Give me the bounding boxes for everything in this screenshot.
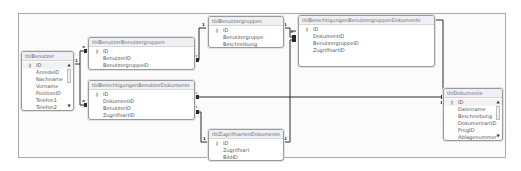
vertical-scrollbar[interactable]: ▲ ▼	[66, 61, 72, 109]
table-tblBerechtigungenBenutzergruppenDokumente[interactable]: tblBerechtigungenBenutzergruppenDokument…	[298, 15, 435, 67]
field[interactable]: BildID	[209, 154, 283, 161]
scroll-down-icon[interactable]: ▼	[495, 133, 501, 138]
table-tblBenutzerBenutzergruppen[interactable]: tblBenutzerBenutzergruppen ⚷ID BenutzerI…	[88, 37, 195, 70]
table-title[interactable]: tblBenutzerBenutzergruppen	[89, 38, 194, 47]
cardinality-one: 1	[75, 58, 78, 63]
field[interactable]: DokumentartID	[444, 120, 502, 127]
field-list: ⚷ID DokumentID BenutzerID ZugriffsartID	[89, 90, 194, 119]
rel-zugriffsarten-berechtigungenbenutzergruppendokumente	[282, 40, 296, 142]
field-list: ⚷ID Benutzergruppe Beschreibung	[209, 26, 283, 48]
field[interactable]: Ablagenummer	[444, 134, 502, 141]
table-title[interactable]: tblDokumente	[444, 89, 502, 98]
cardinality-many: ∞	[290, 29, 293, 34]
scroll-thumb[interactable]	[67, 69, 71, 83]
cardinality-one: 1	[284, 136, 287, 141]
table-tblBenutzergruppen[interactable]: tblBenutzergruppen ⚷ID Benutzergruppe Be…	[208, 16, 284, 48]
field[interactable]: DokumentID	[299, 33, 434, 40]
field-primary-key[interactable]: ⚷ID	[299, 26, 434, 33]
field-list: ⚷ID Zugriffsart BildID	[209, 139, 283, 161]
field[interactable]: BenutzerID	[89, 55, 194, 62]
key-icon: ⚷	[305, 26, 309, 33]
field-primary-key[interactable]: ⚷ID	[209, 140, 283, 147]
table-title[interactable]: tblBenutzer	[22, 52, 73, 61]
field[interactable]: Beschreibung	[444, 113, 502, 120]
scroll-up-icon[interactable]: ▲	[495, 99, 501, 104]
field-primary-key[interactable]: ⚷ID	[89, 48, 194, 55]
field-primary-key[interactable]: ⚷ID	[444, 99, 502, 106]
table-tblBenutzer[interactable]: tblBenutzer ⚷ID AnredeID Nachname Vornam…	[21, 51, 74, 111]
key-icon: ⚷	[215, 140, 219, 147]
cardinality-many: ∞	[82, 44, 85, 49]
field[interactable]: Benutzergruppe	[209, 34, 283, 41]
scroll-thumb[interactable]	[496, 106, 500, 120]
cardinality-one: 1	[284, 22, 287, 27]
table-title[interactable]: tblBerechtigungenBenutzerDokumente	[89, 81, 194, 90]
field[interactable]: ZugriffsartID	[89, 112, 194, 119]
table-title[interactable]: tblBerechtigungenBenutzergruppenDokument…	[299, 16, 434, 25]
field[interactable]: Zugriffsart	[209, 147, 283, 154]
table-tblZugriffsartenDokumente[interactable]: tblZugriffsartenDokumente ⚷ID Zugriffsar…	[208, 129, 284, 161]
field[interactable]: Dateiname	[444, 106, 502, 113]
scroll-down-icon[interactable]: ▼	[66, 103, 72, 108]
field[interactable]: ZugriffsartID	[299, 47, 434, 54]
field-primary-key[interactable]: ⚷ID	[209, 27, 283, 34]
join-marker	[195, 110, 199, 114]
table-title[interactable]: tblZugriffsartenDokumente	[209, 130, 283, 139]
join-marker	[292, 38, 296, 42]
field-primary-key[interactable]: ⚷ID	[89, 91, 194, 98]
key-icon: ⚷	[450, 99, 454, 106]
cardinality-one: 1	[202, 22, 205, 27]
field-list: ⚷ID DokumentID BenutzergruppeID Zugriffs…	[299, 25, 434, 54]
field-list: ⚷ID BenutzerID BenutzergruppeID	[89, 47, 194, 69]
cardinality-one: 1	[203, 136, 206, 141]
table-title[interactable]: tblBenutzergruppen	[209, 17, 283, 26]
key-icon: ⚷	[95, 48, 99, 55]
table-tblBerechtigungenBenutzerDokumente[interactable]: tblBerechtigungenBenutzerDokumente ⚷ID D…	[88, 80, 195, 120]
cardinality-many: ∞	[82, 98, 85, 103]
key-icon: ⚷	[215, 27, 219, 34]
key-icon: ⚷	[95, 91, 99, 98]
scroll-up-icon[interactable]: ▲	[66, 62, 72, 67]
field[interactable]: ProgID	[444, 127, 502, 134]
field[interactable]: BenutzergruppeID	[89, 62, 194, 69]
key-icon: ⚷	[28, 62, 32, 69]
table-tblDokumente[interactable]: tblDokumente ⚷ID Dateiname Beschreibung …	[443, 88, 503, 141]
field[interactable]: BenutzergruppeID	[299, 40, 434, 47]
join-marker	[195, 58, 199, 62]
vertical-scrollbar[interactable]: ▲ ▼	[495, 98, 501, 139]
field[interactable]: BenutzerID	[89, 105, 194, 112]
field[interactable]: Beschreibung	[209, 41, 283, 48]
field[interactable]: DokumentID	[89, 98, 194, 105]
join-marker	[195, 95, 199, 99]
field-list: ⚷ID Dateiname Beschreibung DokumentartID…	[444, 98, 502, 141]
